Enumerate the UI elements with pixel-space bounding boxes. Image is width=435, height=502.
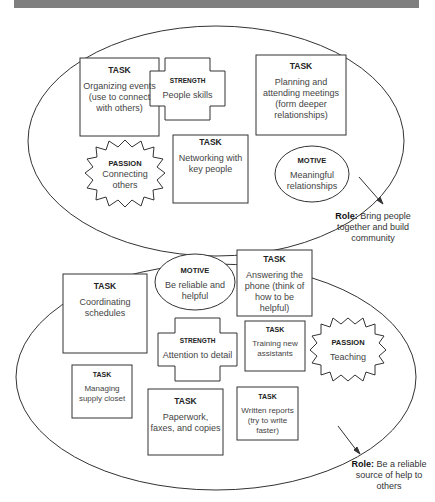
item-type: TASK (258, 61, 344, 72)
role-arrow-1 (359, 177, 380, 201)
item-type: TASK (239, 254, 310, 265)
item-type: TASK (63, 281, 147, 292)
task-written-reports: TASK Written reports (try to write faste… (237, 392, 298, 436)
item-type: PASSION (100, 158, 150, 169)
item-text: Managing supply closet (79, 384, 125, 403)
passion-teaching: PASSION Teaching (323, 337, 373, 363)
passion-connecting-others: PASSION Connecting others (100, 158, 150, 191)
role-arrow-2 (338, 426, 357, 451)
task-managing-supply: TASK Managing supply closet (72, 370, 132, 404)
item-text: Connecting others (102, 169, 148, 190)
item-type: STRENGTH (158, 335, 237, 346)
item-text: Answering the phone (think of how to be … (245, 270, 305, 313)
item-text: Networking with key people (179, 153, 243, 174)
strength-people-skills: STRENGTH People skills (150, 75, 225, 101)
item-type: STRENGTH (150, 75, 225, 86)
item-type: TASK (150, 396, 221, 407)
item-text: Meaningful relationships (287, 170, 338, 191)
task-planning-meetings: TASK Planning and attending meetings (fo… (258, 61, 344, 121)
role-label-2: Role: Be a reliable source of help to ot… (350, 459, 428, 492)
item-type: PASSION (323, 337, 373, 348)
task-coordinating-schedules: TASK Coordinating schedules (63, 281, 147, 319)
role-prefix: Role: (335, 211, 358, 221)
motive-be-reliable: MOTIVE Be reliable and helpful (162, 265, 228, 302)
task-paperwork: TASK Paperwork, faxes, and copies (150, 396, 221, 434)
item-text: Teaching (330, 352, 366, 362)
item-type: TASK (245, 325, 305, 335)
item-type: MOTIVE (280, 155, 344, 166)
item-text: Planning and attending meetings (form de… (263, 77, 339, 120)
task-answering-phone: TASK Answering the phone (think of how t… (239, 254, 310, 314)
item-text: Training new assistants (252, 339, 298, 358)
item-type: MOTIVE (162, 265, 228, 276)
task-networking: TASK Networking with key people (173, 137, 248, 175)
item-text: Organizing events (use to connect with o… (83, 81, 156, 113)
item-text: Be reliable and helpful (165, 280, 225, 301)
item-text: People skills (162, 90, 212, 100)
item-text: Coordinating schedules (79, 297, 130, 318)
item-text: Attention to detail (163, 350, 233, 360)
motive-meaningful-relationships: MOTIVE Meaningful relationships (280, 155, 344, 192)
item-type: TASK (72, 370, 132, 380)
item-text: Paperwork, faxes, and copies (150, 412, 220, 433)
item-text: Written reports (try to write faster) (241, 406, 293, 435)
item-type: TASK (173, 137, 248, 148)
task-training-assistants: TASK Training new assistants (245, 325, 305, 359)
task-organizing-events: TASK Organizing events (use to connect w… (80, 65, 159, 114)
item-type: TASK (237, 392, 298, 402)
item-type: TASK (80, 65, 159, 76)
role-prefix: Role: (351, 459, 374, 469)
role-label-1: Role: Bring people together and build co… (333, 211, 413, 244)
strength-attention-detail: STRENGTH Attention to detail (158, 335, 237, 361)
